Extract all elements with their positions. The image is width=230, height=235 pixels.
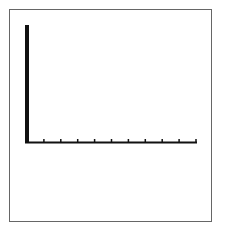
chart-plot-area (0, 0, 230, 235)
